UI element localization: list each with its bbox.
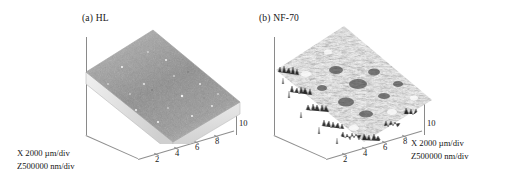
- scale-caption-a: X 2000 µm/div Z500000 nm/div: [17, 147, 75, 172]
- panel-nf70: (b) NF-70 2 4 6 8 10: [254, 0, 508, 183]
- scale-caption-b: X 2000 µm/div Z500000 nm/div: [411, 137, 469, 162]
- tick-label-a-2: 4: [175, 148, 179, 158]
- tick-label-b-2: 4: [363, 148, 367, 158]
- afm-surface-figure: (a) HL 2 4 6 8 10: [0, 0, 508, 183]
- surface-svg-nf70: [266, 18, 441, 148]
- surface-plot-hl: [78, 24, 248, 144]
- panel-hl: (a) HL 2 4 6 8 10: [0, 0, 254, 183]
- scale-x-line-b: X 2000 µm/div: [411, 137, 469, 150]
- tick-label-b-1: 2: [343, 154, 347, 164]
- surface-svg-hl: [78, 24, 248, 144]
- scale-x-line-a: X 2000 µm/div: [17, 147, 75, 160]
- surface-plot-nf70: [266, 18, 441, 148]
- panel-title-a: (a) HL: [82, 13, 109, 23]
- tick-label-a-1: 2: [155, 154, 159, 164]
- scale-z-line-b: Z500000 nm/div: [411, 150, 469, 163]
- scale-z-line-a: Z500000 nm/div: [17, 160, 75, 173]
